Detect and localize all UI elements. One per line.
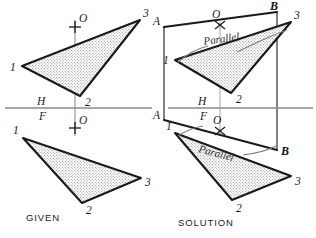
caption-solution: SOLUTION [178, 217, 234, 228]
label-a-solution-front: A [152, 109, 161, 121]
label-vertex-2-given-top: 2 [85, 96, 91, 108]
label-o-given-front: O [79, 114, 88, 126]
label-vertex-3-given-front: 3 [144, 176, 151, 188]
label-f-left: F [38, 110, 47, 122]
label-o-given-top: O [79, 12, 88, 24]
figure-canvas: O O 1 2 3 1 2 3 H F A B A B O O 1 2 3 1 … [0, 0, 316, 238]
label-h-right: H [197, 95, 207, 107]
descriptive-geometry-figure: O O 1 2 3 1 2 3 H F A B A B O O 1 2 3 1 … [0, 0, 316, 238]
label-o-solution-top: O [212, 8, 221, 20]
label-vertex-3-solution-front: 3 [294, 175, 301, 187]
label-vertex-1-solution-front: 1 [166, 120, 172, 132]
label-vertex-3-given-top: 3 [142, 7, 149, 19]
label-vertex-1-given-top: 1 [10, 61, 16, 73]
label-vertex-1-given-front: 1 [13, 124, 19, 136]
label-vertex-2-given-front: 2 [86, 204, 92, 216]
label-vertex-2-solution-top: 2 [236, 93, 242, 105]
given-top-triangle [22, 20, 140, 96]
label-f-right: F [199, 110, 208, 122]
label-h-left: H [36, 95, 46, 107]
label-b-solution-top: B [269, 0, 278, 13]
label-vertex-3-solution-top: 3 [293, 9, 300, 21]
label-vertex-1-solution-top: 1 [163, 54, 169, 66]
label-b-solution-front: B [280, 144, 289, 158]
label-a-solution-top: A [152, 15, 161, 27]
label-vertex-2-solution-front: 2 [236, 202, 242, 214]
solution-front-triangle [175, 133, 291, 200]
given-front-triangle [23, 138, 141, 203]
caption-given: GIVEN [26, 212, 60, 223]
label-o-solution-front: O [213, 114, 222, 126]
